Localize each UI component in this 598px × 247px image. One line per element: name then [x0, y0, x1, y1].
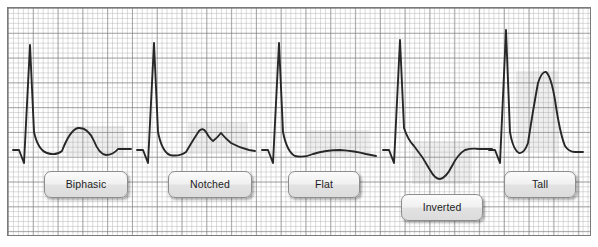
label-chip-inverted[interactable]: Inverted	[401, 194, 483, 221]
label-chip-text-inverted: Inverted	[423, 202, 462, 213]
label-chip-text-notched: Notched	[190, 179, 230, 190]
label-chip-text-tall: Tall	[532, 179, 548, 190]
label-chip-tall[interactable]: Tall	[504, 171, 576, 198]
label-chip-text-biphasic: Biphasic	[66, 179, 107, 190]
ecg-t-wave-morphology-figure: BiphasicNotchedFlatInvertedTall	[0, 0, 598, 247]
ecg-grid-paper	[7, 7, 591, 236]
label-chip-notched[interactable]: Notched	[168, 171, 252, 198]
label-chip-biphasic[interactable]: Biphasic	[44, 171, 128, 198]
label-chip-text-flat: Flat	[315, 179, 333, 190]
label-chip-flat[interactable]: Flat	[288, 171, 360, 198]
